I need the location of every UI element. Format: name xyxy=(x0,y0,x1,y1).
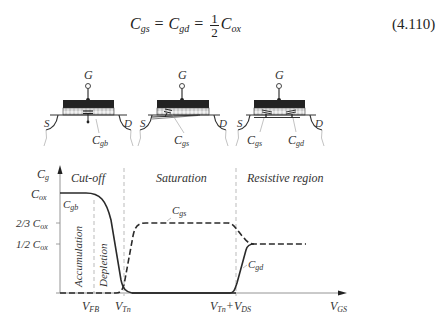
gate-poly xyxy=(254,100,305,108)
cox-tick-label: Cox xyxy=(31,187,47,202)
region-saturation: Saturation xyxy=(156,171,207,185)
cgb-curve xyxy=(60,193,236,293)
cross-section-cutoff: G S D Cgb xyxy=(44,68,133,148)
half-cox-tick-label: 1/2 Cox xyxy=(16,238,48,252)
drain-label: D xyxy=(123,117,132,129)
vtn-tick-label: VTn xyxy=(115,299,131,314)
cgd-curve-label: Cgd xyxy=(248,258,264,272)
drain-label: D xyxy=(314,117,323,129)
cap-label-cgs: Cgs xyxy=(174,133,189,148)
vtn-vds-tick-label: VTn+VDS xyxy=(210,299,251,314)
gate-terminal-icon xyxy=(86,84,91,89)
gate-poly xyxy=(157,100,209,108)
gate-label: G xyxy=(178,68,187,82)
cap-label-cgb: Cgb xyxy=(92,133,108,148)
capacitance-chart: Cg Cox 2/3 Cox 1/2 Cox Cut-off Saturatio… xyxy=(16,165,347,314)
drain-label: D xyxy=(218,117,227,129)
cap-label-cgd: Cgd xyxy=(288,133,305,148)
subregion-depletion: Depletion xyxy=(97,243,109,288)
region-resistive: Resistive region xyxy=(246,171,324,185)
vfb-tick-label: VFB xyxy=(82,299,99,314)
cap-label-cgs: Cgs xyxy=(247,133,262,148)
cross-section-saturation: G S D Cgs xyxy=(138,68,228,148)
gate-terminal-icon xyxy=(180,84,185,89)
gate-label: G xyxy=(84,68,93,82)
gate-poly xyxy=(63,100,114,108)
y-axis-arrow-icon xyxy=(58,165,63,174)
cgb-curve-label: Cgb xyxy=(63,198,78,212)
cgs-curve-label: Cgs xyxy=(172,204,186,218)
cross-section-resistive: G S D Cgs Cgd xyxy=(236,68,324,148)
source-label: S xyxy=(237,117,243,129)
vgs-axis-label: VGS xyxy=(330,299,347,314)
source-label: S xyxy=(44,117,50,129)
two-thirds-cox-tick-label: 2/3 Cox xyxy=(16,217,48,231)
source-label: S xyxy=(140,117,146,129)
gate-oxide xyxy=(254,108,305,115)
figure: G S D Cgb G xyxy=(0,0,445,323)
gate-terminal-icon xyxy=(277,84,282,89)
gate-label: G xyxy=(275,68,284,82)
cg-axis-label: Cg xyxy=(37,167,49,182)
region-cutoff: Cut-off xyxy=(71,171,107,185)
x-axis-arrow-icon xyxy=(338,291,347,296)
subregion-accumulation: Accumulation xyxy=(72,225,84,288)
